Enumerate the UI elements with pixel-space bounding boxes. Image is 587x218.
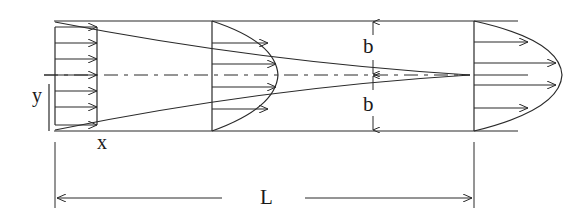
inlet-profile <box>44 27 97 125</box>
entrance-length-label: L <box>260 187 273 208</box>
fully-developed-profile <box>474 21 562 131</box>
x-axis-label: x <box>97 132 107 152</box>
half-width-label-top: b <box>363 36 374 57</box>
channel-flow-diagram <box>0 0 587 218</box>
half-width-label-bottom: b <box>363 94 374 115</box>
boundary-layer-top <box>55 22 470 75</box>
developing-profile <box>212 21 278 131</box>
y-axis-label: y <box>32 85 42 105</box>
boundary-layer-bottom <box>55 75 470 130</box>
